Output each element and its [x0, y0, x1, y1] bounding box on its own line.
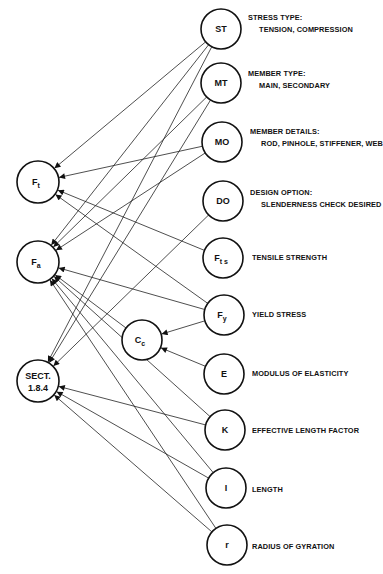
label-mo: MEMBER DETAILS:ROD, PINHOLE, STIFFENER, … — [250, 127, 383, 148]
node-fy: Fy — [204, 295, 244, 335]
label-title: DESIGN OPTION: — [250, 188, 382, 197]
node-i: I — [206, 468, 246, 508]
node-label: ST — [215, 24, 227, 34]
node-mo: MO — [202, 122, 242, 162]
node-ft: Ft — [17, 161, 59, 203]
edge-st-to-sect — [48, 47, 212, 362]
node-label: I — [225, 483, 228, 493]
node-k: K — [205, 410, 245, 450]
node-label: MT — [215, 78, 228, 88]
label-fy: YIELD STRESS — [252, 310, 306, 319]
node-sublabel: 1.8.4 — [28, 383, 48, 393]
node-fts: Ft s — [203, 238, 243, 278]
node-label: SECT. — [25, 371, 51, 381]
node-fa: Fa — [17, 241, 59, 283]
node-label: K — [222, 425, 229, 435]
label-do: DESIGN OPTION:SLENDERNESS CHECK DESIRED — [250, 188, 382, 209]
edge-mo-to-fa — [56, 153, 205, 250]
edges-layer — [48, 42, 216, 532]
node-mt: MT — [201, 63, 241, 103]
label-detail: SLENDERNESS CHECK DESIRED — [250, 200, 382, 209]
node-cc: Cc — [122, 320, 162, 360]
label-title: STRESS TYPE: — [248, 13, 353, 22]
label-title: LENGTH — [252, 485, 283, 494]
node-circle — [17, 360, 59, 402]
node-label: MO — [215, 137, 230, 147]
label-title: MEMBER TYPE: — [248, 69, 330, 78]
label-title: MEMBER DETAILS: — [250, 127, 383, 136]
label-i: LENGTH — [252, 485, 283, 494]
nodes-layer: STMTMODOFt sFyEKIrCcFtFaSECT.1.8.4 — [17, 9, 247, 565]
node-label: DO — [216, 196, 230, 206]
edge-e-to-cc — [161, 348, 206, 366]
edge-r-to-sect — [54, 395, 212, 532]
label-detail: MAIN, SECONDARY — [248, 81, 330, 90]
label-k: EFFECTIVE LENGTH FACTOR — [252, 426, 359, 435]
edge-st-to-ft — [54, 42, 205, 168]
edge-fy-to-fa — [59, 268, 205, 310]
edge-cc-to-fa — [55, 275, 126, 328]
label-e: MODULUS OF ELASTICITY — [252, 369, 348, 378]
label-st: STRESS TYPE:TENSION, COMPRESSION — [248, 13, 353, 34]
edge-fy-to-cc — [162, 321, 205, 334]
node-r: r — [207, 525, 247, 565]
label-fts: TENSILE STRENGTH — [252, 253, 327, 262]
node-label: E — [221, 369, 227, 379]
label-detail: ROD, PINHOLE, STIFFENER, WEB — [250, 139, 383, 148]
label-detail: TENSION, COMPRESSION — [248, 25, 353, 34]
node-label: r — [225, 540, 229, 550]
label-title: YIELD STRESS — [252, 310, 306, 319]
edge-st-to-fa — [51, 45, 208, 245]
label-r: RADIUS OF GYRATION — [252, 542, 334, 551]
node-e: E — [204, 354, 244, 394]
edge-fts-to-ft — [58, 190, 205, 250]
node-do: DO — [203, 181, 243, 221]
label-mt: MEMBER TYPE:MAIN, SECONDARY — [248, 69, 330, 90]
label-title: RADIUS OF GYRATION — [252, 542, 334, 551]
edge-i-to-fa — [52, 279, 213, 473]
edge-i-to-sect — [57, 392, 209, 478]
edge-fy-to-ft — [55, 195, 207, 304]
label-title: TENSILE STRENGTH — [252, 253, 327, 262]
label-title: MODULUS OF ELASTICITY — [252, 369, 348, 378]
node-st: ST — [201, 9, 241, 49]
edge-mo-to-ft — [59, 146, 202, 177]
node-sect: SECT.1.8.4 — [17, 360, 59, 402]
label-title: EFFECTIVE LENGTH FACTOR — [252, 426, 359, 435]
edge-r-to-fa — [50, 280, 216, 528]
edge-mt-to-fa — [53, 97, 206, 247]
